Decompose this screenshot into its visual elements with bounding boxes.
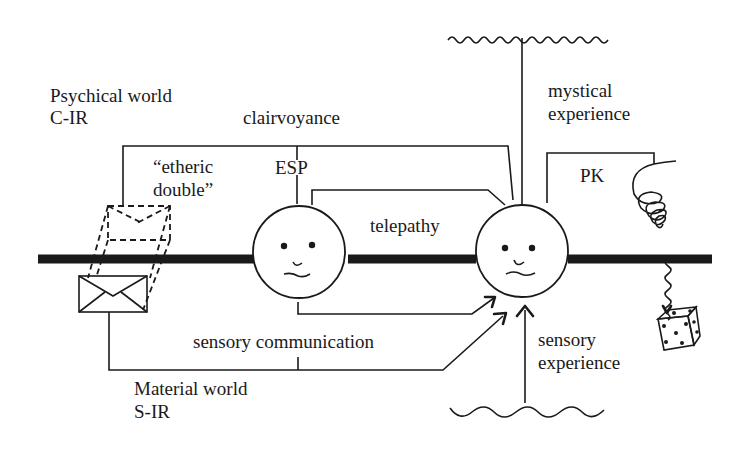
dice-icon [658, 307, 700, 350]
pk-label: PK [580, 165, 605, 186]
mystical-label-line2: experience [548, 103, 630, 124]
telepathy-label: telepathy [370, 215, 440, 236]
clairvoyance-label: clairvoyance [243, 107, 340, 128]
mystical-label-line1: mystical [548, 80, 612, 101]
psi-communication-diagram: Psychical world C-IR clairvoyance “ether… [0, 0, 745, 453]
sensory-source-wave [450, 407, 604, 417]
sensory-communication-label: sensory communication [193, 331, 374, 352]
sensory-experience-label-line2: experience [538, 352, 620, 373]
receiver-face-icon [476, 205, 568, 297]
sender-face-icon [253, 206, 345, 298]
etheric-label-line1: “etheric [153, 156, 213, 177]
envelope-icon [79, 276, 147, 312]
material-world-label: Material world [134, 378, 248, 399]
coil-spring-icon [633, 161, 676, 320]
mystical-source-wave [448, 37, 608, 43]
psychical-code-label: C-IR [50, 107, 88, 128]
sensory-communication-line-upper [298, 298, 494, 314]
etheric-label-line2: double” [153, 179, 213, 200]
sensory-experience-label-line1: sensory [538, 329, 597, 350]
arrowhead-upper [485, 297, 495, 307]
psychical-world-label: Psychical world [50, 85, 172, 106]
telepathy-connection-line [312, 190, 505, 205]
esp-label: ESP [275, 157, 308, 178]
material-code-label: S-IR [134, 401, 170, 422]
